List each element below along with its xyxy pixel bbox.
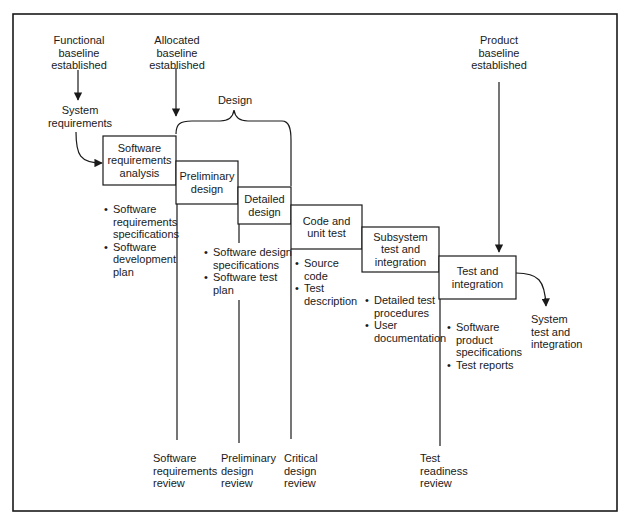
deliverable-item: Test description	[294, 282, 364, 307]
review-cdr: Critical design review	[284, 452, 334, 490]
phase-cut: Code and unit test	[291, 205, 362, 249]
system-test-label: System test and integration	[531, 313, 601, 351]
deliverables-cut: Source code Test description	[294, 257, 364, 307]
deliverables-sra: Software requirements specifications Sof…	[103, 203, 183, 278]
deliverables-dd: Software design specifications Software …	[203, 246, 293, 296]
deliverable-item: Software development plan	[103, 241, 183, 279]
deliverable-item: Software product specifications	[446, 321, 526, 359]
deliverable-item: Test reports	[446, 359, 526, 372]
system-test-arrow	[516, 273, 546, 306]
deliverable-item: Software requirements specifications	[103, 203, 183, 241]
system-requirements-arrow	[76, 132, 102, 163]
phase-ti: Test and integration	[439, 256, 516, 299]
deliverable-item: Source code	[294, 257, 364, 282]
deliverable-item: User documentation	[364, 319, 444, 344]
review-srr: Software requirements review	[153, 452, 219, 490]
phase-sra: Software requirements analysis	[103, 136, 176, 185]
product-baseline-label: Product baseline established	[466, 34, 532, 72]
deliverable-item: Detailed test procedures	[364, 294, 444, 319]
deliverables-ti: Software product specifications Test rep…	[446, 321, 526, 371]
phase-dd: Detailed design	[238, 187, 291, 224]
allocated-baseline-label: Allocated baseline established	[142, 34, 212, 72]
review-pdr: Preliminary design review	[221, 452, 287, 490]
system-requirements-label: System requirements	[45, 104, 115, 129]
deliverables-sti: Detailed test procedures User documentat…	[364, 294, 444, 344]
functional-baseline-label: Functional baseline established	[44, 34, 114, 72]
review-trr: Test readiness review	[420, 452, 480, 490]
design-label: Design	[212, 94, 258, 107]
phase-sti: Subsystem test and integration	[362, 227, 439, 272]
deliverable-item: Software test plan	[203, 271, 293, 296]
deliverable-item: Software design specifications	[203, 246, 293, 271]
phase-pd: Preliminary design	[176, 161, 238, 204]
